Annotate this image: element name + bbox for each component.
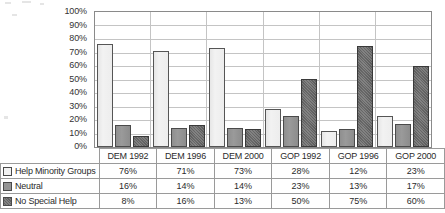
table-cell: 60%: [387, 194, 445, 209]
y-axis-tick-label: 100%: [1, 7, 87, 16]
bar-group: [320, 12, 376, 147]
chart-plot-block: 0%10%20%30%40%50%60%70%80%90%100%: [0, 0, 445, 160]
table-column-header: DEM 1996: [157, 149, 215, 164]
bar-groups: [95, 12, 431, 147]
bar-chart-figure: 0%10%20%30%40%50%60%70%80%90%100% DEM 19…: [0, 0, 445, 213]
bar-2-4[interactable]: [357, 46, 373, 147]
table-cell: 71%: [157, 164, 215, 179]
table-cell: 16%: [99, 179, 157, 194]
table-cell: 8%: [99, 194, 157, 209]
y-axis: 0%10%20%30%40%50%60%70%80%90%100%: [0, 6, 90, 154]
bar-2-5[interactable]: [413, 66, 429, 147]
y-axis-tick-label: 80%: [1, 34, 87, 43]
legend-cell: Help Minority Groups: [1, 164, 100, 179]
bar-0-3[interactable]: [265, 109, 281, 147]
bar-0-4[interactable]: [321, 131, 337, 147]
bar-1-1[interactable]: [171, 128, 187, 147]
table-cell: 28%: [272, 164, 330, 179]
legend-cell: No Special Help: [1, 194, 100, 209]
bar-group: [264, 12, 320, 147]
bar-group: [151, 12, 207, 147]
table-cell: 75%: [329, 194, 387, 209]
bar-1-4[interactable]: [339, 129, 355, 147]
series-0-swatch-icon: [3, 167, 12, 176]
legend-label: Help Minority Groups: [15, 166, 96, 176]
table-column-header: GOP 1996: [329, 149, 387, 164]
table-column-header: GOP 2000: [387, 149, 445, 164]
bar-0-0[interactable]: [97, 44, 113, 147]
legend-label: No Special Help: [15, 196, 77, 206]
table-cell: 13%: [329, 179, 387, 194]
bar-0-1[interactable]: [153, 51, 169, 147]
y-axis-tick-label: 50%: [1, 74, 87, 83]
y-axis-tick-label: 70%: [1, 47, 87, 56]
y-axis-tick-label: 40%: [1, 88, 87, 97]
bar-0-5[interactable]: [377, 116, 393, 147]
table-cell: 16%: [157, 194, 215, 209]
bar-group: [376, 12, 431, 147]
table-cell: 73%: [214, 164, 272, 179]
bar-2-2[interactable]: [245, 129, 261, 147]
table-cell: 50%: [272, 194, 330, 209]
y-axis-tick-label: 60%: [1, 61, 87, 70]
table-column-header: DEM 2000: [214, 149, 272, 164]
table-cell: 23%: [387, 164, 445, 179]
table-column-header: DEM 1992: [99, 149, 157, 164]
y-axis-tick-label: 20%: [1, 115, 87, 124]
plot-area: [94, 11, 432, 148]
series-2-swatch-icon: [3, 197, 12, 206]
table-cell: 14%: [214, 179, 272, 194]
bar-0-2[interactable]: [209, 48, 225, 147]
bar-1-0[interactable]: [115, 125, 131, 147]
data-table-body: DEM 1992DEM 1996DEM 2000GOP 1992GOP 1996…: [1, 149, 445, 209]
series-1-swatch-icon: [3, 182, 12, 191]
bar-group: [95, 12, 151, 147]
bar-1-5[interactable]: [395, 124, 411, 147]
bar-group: [207, 12, 263, 147]
bar-2-3[interactable]: [301, 79, 317, 147]
y-axis-tick-label: 90%: [1, 20, 87, 29]
table-corner-cell: [1, 149, 100, 164]
table-column-header: GOP 1992: [272, 149, 330, 164]
table-cell: 13%: [214, 194, 272, 209]
bar-1-2[interactable]: [227, 128, 243, 147]
table-cell: 76%: [99, 164, 157, 179]
bar-1-3[interactable]: [283, 116, 299, 147]
table-cell: 14%: [157, 179, 215, 194]
table-row: Help Minority Groups76%71%73%28%12%23%: [1, 164, 445, 179]
table-row: Neutral16%14%14%23%13%17%: [1, 179, 445, 194]
bar-2-1[interactable]: [189, 125, 205, 147]
table-row: No Special Help8%16%13%50%75%60%: [1, 194, 445, 209]
bar-2-0[interactable]: [133, 136, 149, 147]
legend-cell: Neutral: [1, 179, 100, 194]
y-axis-tick-label: 10%: [1, 128, 87, 137]
table-cell: 23%: [272, 179, 330, 194]
data-table: DEM 1992DEM 1996DEM 2000GOP 1992GOP 1996…: [0, 148, 445, 209]
y-axis-tick-label: 30%: [1, 101, 87, 110]
legend-label: Neutral: [15, 181, 43, 191]
table-cell: 17%: [387, 179, 445, 194]
table-cell: 12%: [329, 164, 387, 179]
table-header-row: DEM 1992DEM 1996DEM 2000GOP 1992GOP 1996…: [1, 149, 445, 164]
